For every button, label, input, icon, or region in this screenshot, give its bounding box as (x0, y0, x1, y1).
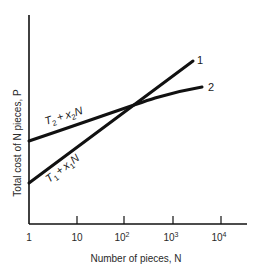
x-tick-label: 10 (71, 232, 83, 243)
series-2-label: 2 (208, 81, 214, 93)
series-2-line (29, 87, 202, 141)
x-tick-labels: 1 10 102 103 104 (26, 231, 226, 243)
x-tick-label: 102 (114, 231, 129, 243)
y-axis-title: Total cost of N pieces, P (12, 89, 23, 197)
x-ticks (77, 216, 221, 224)
series-2-equation: T2+x2N (43, 104, 85, 130)
x-tick-label: 103 (163, 231, 178, 243)
series-1-label: 1 (197, 54, 203, 66)
chart: 1 10 102 103 104 Number of pieces, N Tot… (0, 0, 263, 276)
x-tick-label: 1 (26, 232, 32, 243)
x-tick-label: 104 (211, 231, 226, 243)
x-axis-title: Number of pieces, N (90, 253, 181, 264)
